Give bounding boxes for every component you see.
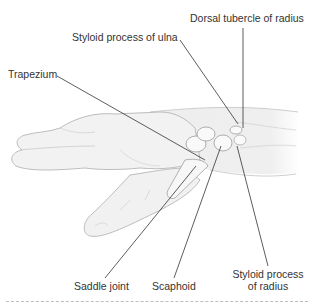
label-styloid-process-of-ulna: Styloid process of ulna — [72, 31, 178, 43]
scaphoid-bone — [214, 135, 232, 151]
label-dorsal-tubercle-of-radius: Dorsal tubercle of radius — [190, 12, 304, 24]
label-styloid-radius-line1: Styloid process — [232, 268, 304, 280]
dashed-divider — [6, 301, 308, 302]
label-styloid-radius-line2: of radius — [232, 280, 304, 292]
wrist-anatomy-figure: Dorsal tubercle of radius Styloid proces… — [0, 0, 314, 308]
hand-illustration — [0, 0, 314, 308]
label-scaphoid: Scaphoid — [152, 280, 196, 292]
label-trapezium: Trapezium — [8, 68, 57, 80]
dorsal-tubercle-bone — [230, 126, 242, 134]
label-styloid-process-of-radius: Styloid process of radius — [232, 268, 304, 292]
label-saddle-joint: Saddle joint — [74, 280, 129, 292]
